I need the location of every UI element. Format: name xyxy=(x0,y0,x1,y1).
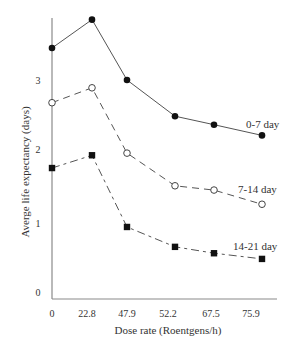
data-point-marker xyxy=(172,244,178,250)
series-label-0-7-day: 0-7 day xyxy=(246,118,280,130)
data-point-marker xyxy=(259,201,266,208)
line-chart: 0 1 2 3 0 22.8 47.9 52.2 67.5 75.9 Dose … xyxy=(0,0,308,352)
data-point-marker xyxy=(172,113,179,120)
y-tick-labels: 0 1 2 3 xyxy=(36,75,41,298)
series-layer xyxy=(49,16,266,262)
data-point-marker xyxy=(124,77,131,84)
x-tick-4: 67.5 xyxy=(202,308,220,319)
series-line xyxy=(52,88,262,205)
x-tick-5: 75.9 xyxy=(242,308,260,319)
series-label-7-14-day: 7-14 day xyxy=(238,183,277,195)
data-point-marker xyxy=(89,152,95,158)
data-point-marker xyxy=(259,132,266,139)
data-point-marker xyxy=(211,187,218,194)
data-point-marker xyxy=(89,16,96,23)
data-point-marker xyxy=(49,165,55,171)
y-axis-title: Averge life expectancy (days) xyxy=(19,106,32,238)
series-0-7-day xyxy=(49,16,266,138)
x-tick-labels: 0 22.8 47.9 52.2 67.5 75.9 xyxy=(50,308,260,319)
x-axis-title: Dose rate (Roentgens/h) xyxy=(115,324,222,337)
x-tick-3: 52.2 xyxy=(159,308,177,319)
data-point-marker xyxy=(211,121,218,128)
y-tick-0: 0 xyxy=(36,287,41,298)
x-tick-2: 47.9 xyxy=(118,308,136,319)
x-tick-1: 22.8 xyxy=(78,308,96,319)
data-point-marker xyxy=(124,224,130,230)
y-tick-3: 3 xyxy=(36,75,41,86)
data-point-marker xyxy=(124,150,131,157)
data-point-marker xyxy=(172,182,179,189)
series-label-14-21-day: 14-21 day xyxy=(233,240,278,252)
y-tick-1: 1 xyxy=(36,218,41,229)
y-tick-2: 2 xyxy=(36,144,41,155)
data-point-marker xyxy=(89,85,96,92)
series-line xyxy=(52,20,262,136)
data-point-marker xyxy=(49,99,56,106)
data-point-marker xyxy=(259,256,265,262)
data-point-marker xyxy=(211,250,217,256)
series-line xyxy=(52,155,262,259)
data-point-marker xyxy=(49,45,56,52)
x-tick-0: 0 xyxy=(50,308,55,319)
